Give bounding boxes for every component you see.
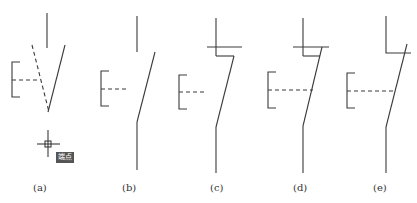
panel-b-label: (b)	[122, 182, 136, 193]
panel-b-drawing	[101, 16, 155, 170]
panel-a-drawing	[12, 13, 65, 157]
panel-e-drawing	[347, 16, 411, 173]
panel-c-label: (c)	[210, 182, 223, 193]
panel-a-label: (a)	[33, 182, 47, 193]
panel-e-label: (e)	[373, 182, 387, 193]
snap-endpoint-tag: 端点	[56, 152, 74, 163]
panel-d-drawing	[268, 18, 329, 173]
switch-diagrams	[0, 0, 417, 203]
panel-d-label: (d)	[293, 182, 307, 193]
panel-c-drawing	[179, 18, 242, 173]
